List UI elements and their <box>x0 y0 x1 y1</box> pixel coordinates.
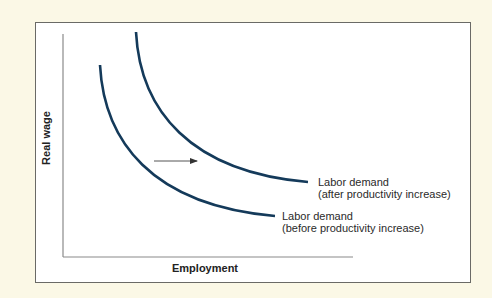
labor-demand-after-curve <box>136 32 308 182</box>
label-before-line2: (before productivity increase) <box>282 222 424 234</box>
x-axis-label: Employment <box>172 262 238 274</box>
label-before-line1: Labor demand <box>282 210 424 222</box>
label-after-line1: Labor demand <box>318 176 451 188</box>
label-after: Labor demand (after productivity increas… <box>318 176 451 200</box>
label-after-line2: (after productivity increase) <box>318 188 451 200</box>
label-before: Labor demand (before productivity increa… <box>282 210 424 234</box>
chart-canvas <box>0 0 492 298</box>
y-axis-label: Real wage <box>40 103 56 173</box>
